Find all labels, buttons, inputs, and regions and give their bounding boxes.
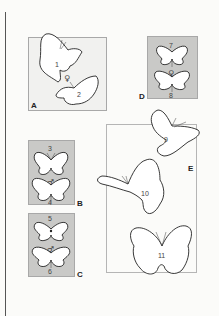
svg-text:7: 7 <box>169 42 173 49</box>
butterfly-2-icon: 2 <box>56 76 98 105</box>
svg-text:9: 9 <box>164 136 168 143</box>
svg-text:1: 1 <box>55 61 59 68</box>
svg-text:6: 6 <box>48 268 52 275</box>
svg-text:2: 2 <box>77 91 81 98</box>
butterfly-1-icon: 1 <box>40 34 82 82</box>
svg-text:8: 8 <box>169 92 173 99</box>
butterfly-illustrations: 1 ♀ 2 3 ♂ 4 5 ♂ 6 7 ♀ 8 <box>0 0 219 316</box>
svg-text:4: 4 <box>48 199 52 206</box>
svg-text:11: 11 <box>158 252 165 259</box>
svg-text:3: 3 <box>48 145 52 152</box>
butterfly-9-icon: 9 <box>151 110 199 156</box>
butterfly-11-icon: 11 <box>131 226 192 274</box>
svg-text:10: 10 <box>141 190 149 197</box>
butterfly-7-icon: 7 <box>157 42 188 67</box>
female-symbol-a: ♀ <box>64 74 70 83</box>
svg-text:5: 5 <box>48 215 52 222</box>
butterfly-10-icon: 10 <box>98 159 164 213</box>
butterfly-3-icon: 3 <box>34 145 68 175</box>
butterfly-5-icon: 5 <box>34 215 68 241</box>
